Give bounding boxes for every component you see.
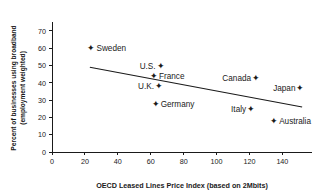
data-point-marker: ✦ xyxy=(270,116,278,126)
data-point-label: U.K. xyxy=(138,82,154,91)
x-tick-label: 20 xyxy=(81,157,89,166)
y-tick-label: 40 xyxy=(38,79,46,88)
x-tick-label: 60 xyxy=(147,157,155,166)
data-point-label: Sweden xyxy=(96,44,126,53)
scatter-plot: 010203040506070020406080100120140 ✦Swede… xyxy=(0,0,329,195)
y-tick-label: 50 xyxy=(38,61,46,70)
x-axis-title: OECD Leased Lines Price Index (based on … xyxy=(96,181,268,190)
data-point-marker: ✦ xyxy=(157,61,165,71)
x-tick-label: 140 xyxy=(276,157,288,166)
x-tick-label: 80 xyxy=(180,157,188,166)
x-tick-label: 100 xyxy=(211,157,223,166)
data-point-label: Canada xyxy=(222,74,251,83)
chart-container: 010203040506070020406080100120140 ✦Swede… xyxy=(0,0,329,195)
data-point-marker: ✦ xyxy=(155,81,163,91)
data-point-marker: ✦ xyxy=(150,71,158,81)
y-tick-label: 70 xyxy=(38,27,46,36)
y-axis-title-line2: (employment weighted) xyxy=(19,51,27,125)
data-point-label: Italy xyxy=(231,105,247,114)
data-point-marker: ✦ xyxy=(152,99,160,109)
y-tick-label: 30 xyxy=(38,96,46,105)
data-point-marker: ✦ xyxy=(296,83,304,93)
data-point-marker: ✦ xyxy=(252,73,260,83)
data-point-label: Germany xyxy=(161,100,196,109)
data-point-marker: ✦ xyxy=(247,104,255,114)
y-tick-label: 0 xyxy=(42,148,46,157)
x-tick-label: 120 xyxy=(243,157,255,166)
trend-line xyxy=(90,67,302,107)
data-point-label: Japan xyxy=(273,84,296,93)
data-point-label: Australia xyxy=(279,117,311,126)
data-point-label: U.S. xyxy=(140,62,156,71)
data-point-marker: ✦ xyxy=(87,43,95,53)
y-tick-label: 10 xyxy=(38,130,46,139)
data-point-label: France xyxy=(159,72,185,81)
axis-tick-labels: 010203040506070020406080100120140 xyxy=(38,27,288,166)
x-tick-label: 0 xyxy=(50,157,54,166)
data-points: ✦Sweden✦U.S.✦France✦U.K.✦Germany✦Canada✦… xyxy=(87,43,311,126)
y-tick-label: 20 xyxy=(38,113,46,122)
axis-titles: OECD Leased Lines Price Index (based on … xyxy=(10,25,268,190)
y-axis-title-line1: Percent of businesses using broadband xyxy=(10,25,18,150)
y-tick-label: 60 xyxy=(38,44,46,53)
trend-line-segment xyxy=(90,67,302,107)
x-tick-label: 40 xyxy=(114,157,122,166)
axis-ticks xyxy=(49,31,282,155)
